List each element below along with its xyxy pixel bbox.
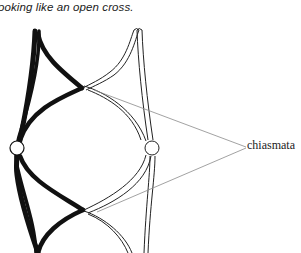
centromere-right	[145, 141, 159, 155]
white-chromosome	[83, 29, 155, 253]
centromere-left	[10, 141, 24, 155]
chiasmata-diagram	[0, 0, 301, 253]
chiasmata-label: chiasmata	[247, 138, 295, 153]
dark-chromosome	[16, 31, 83, 253]
chiasmata-pointer-lines	[94, 90, 246, 212]
